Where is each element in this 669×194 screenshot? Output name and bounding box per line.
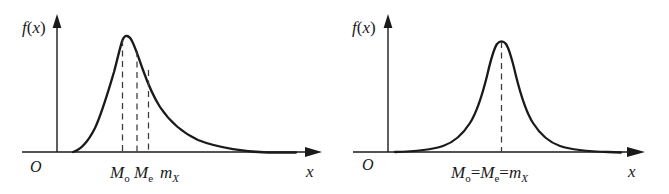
label-mode-base: M bbox=[109, 163, 125, 182]
dashed-reference-lines bbox=[123, 40, 149, 152]
statistic-labels: Mo=Me=mX bbox=[450, 163, 529, 184]
label-mode-median-mean: Mo=Me=mX bbox=[450, 163, 529, 184]
label-mean-base: m bbox=[509, 163, 521, 182]
label-median-base: M bbox=[133, 163, 149, 182]
label-mean-base: m bbox=[160, 163, 172, 182]
label-mode-base: M bbox=[450, 163, 466, 182]
density-curve bbox=[395, 41, 621, 152]
label-median-subscript: e bbox=[148, 172, 153, 184]
x-axis-label-text: x bbox=[627, 162, 636, 181]
label-mean-subscript: X bbox=[520, 172, 529, 184]
statistic-labels: Mo Me mX bbox=[109, 163, 180, 184]
x-axis-label: x bbox=[305, 162, 314, 181]
density-curve bbox=[73, 36, 296, 153]
chart-panel-right-skewed: f(x) O x Mo Me mX bbox=[0, 0, 334, 194]
y-axis bbox=[384, 14, 393, 152]
origin-label-text: O bbox=[362, 156, 374, 173]
origin-label: O bbox=[362, 156, 374, 173]
x-axis-label: x bbox=[627, 162, 636, 181]
label-mean-subscript: X bbox=[171, 172, 180, 184]
origin-label-text: O bbox=[30, 158, 42, 175]
svg-text:f(x): f(x) bbox=[22, 18, 46, 37]
figure-container: f(x) O x Mo Me mX bbox=[0, 0, 669, 194]
y-axis-label-paren-close: ) bbox=[40, 18, 46, 37]
label-mode: Mo bbox=[109, 163, 130, 184]
equals-sign-2: = bbox=[499, 163, 509, 182]
y-axis bbox=[53, 14, 62, 152]
label-median-base: M bbox=[479, 163, 495, 182]
y-axis-label: f(x) bbox=[22, 18, 46, 37]
y-axis-label-paren-close: ) bbox=[370, 18, 376, 37]
label-mode-subscript: o bbox=[124, 172, 130, 184]
x-axis-label-text: x bbox=[305, 162, 314, 181]
label-median: Me bbox=[133, 163, 153, 184]
svg-text:f(x): f(x) bbox=[352, 18, 376, 37]
y-axis-label: f(x) bbox=[352, 18, 376, 37]
origin-label: O bbox=[30, 158, 42, 175]
chart-panel-symmetric: f(x) O x Mo=Me=mX bbox=[335, 0, 669, 194]
equals-sign-1: = bbox=[471, 163, 481, 182]
label-mean: mX bbox=[160, 163, 180, 184]
